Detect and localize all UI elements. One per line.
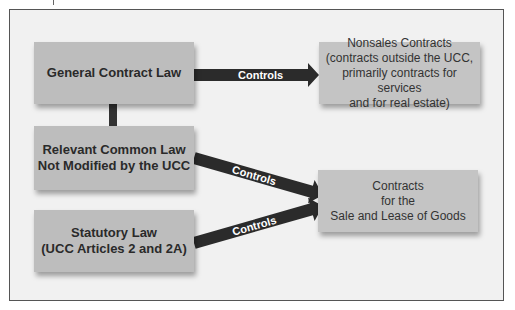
general-contract-law-label: General Contract Law: [47, 65, 181, 81]
arrow-statutory-to-goods: Controls: [191, 195, 326, 255]
goods-line1: Contracts: [372, 179, 423, 194]
connector-bar: [109, 103, 117, 126]
goods-line3: Sale and Lease of Goods: [330, 209, 465, 224]
statutory-law-line1: Statutory Law: [71, 225, 157, 241]
nonsales-contracts-box: Nonsales Contracts (contracts outside th…: [319, 42, 480, 104]
statutory-law-box: Statutory Law (UCC Articles 2 and 2A): [34, 210, 194, 272]
arrow-general-to-nonsales: Controls: [194, 63, 319, 87]
common-law-line2: Not Modified by the UCC: [38, 158, 190, 174]
nonsales-line1: Nonsales Contracts: [347, 36, 452, 51]
nonsales-line3: primarily contracts for services: [319, 66, 480, 96]
goods-line2: for the: [381, 194, 415, 209]
common-law-line1: Relevant Common Law: [42, 142, 185, 158]
general-contract-law-box: General Contract Law: [34, 42, 194, 104]
controls-label-1: Controls: [238, 69, 283, 81]
statutory-law-line2: (UCC Articles 2 and 2A): [41, 241, 186, 257]
controls-label-3: Controls: [231, 214, 278, 238]
sale-lease-goods-box: Contracts for the Sale and Lease of Good…: [318, 170, 478, 232]
arrow-common-to-goods: Controls: [191, 146, 326, 206]
controls-label-2: Controls: [231, 163, 278, 187]
nonsales-line4: and for real estate): [349, 96, 450, 111]
common-law-box: Relevant Common Law Not Modified by the …: [34, 126, 194, 190]
nonsales-line2: (contracts outside the UCC,: [326, 51, 473, 66]
